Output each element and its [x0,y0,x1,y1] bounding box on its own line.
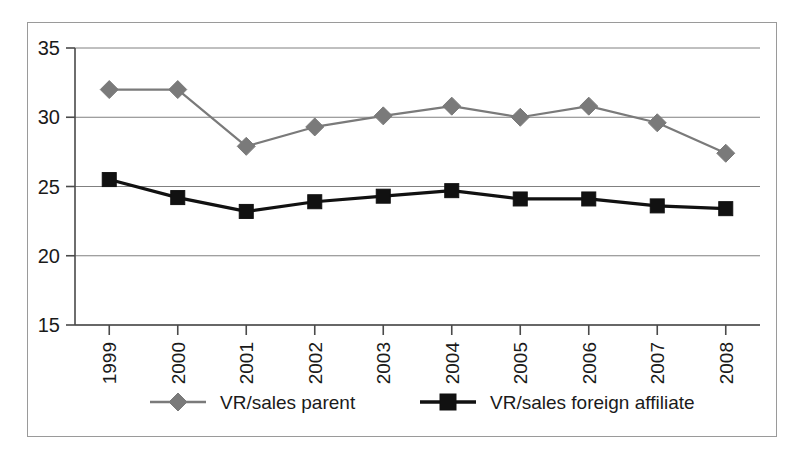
series-line [109,180,726,212]
data-point-marker [306,118,324,136]
x-tick-label: 2008 [716,342,737,384]
x-tick-label: 2002 [305,342,326,384]
data-point-marker [717,144,735,162]
x-tick-labels: 1999200020012002200320042005200620072008 [99,342,737,385]
data-point-marker [374,107,392,125]
x-tick-label: 2001 [236,342,257,384]
x-tick-marks [109,325,726,335]
data-point-marker [102,173,116,187]
data-point-marker [719,202,733,216]
data-point-marker [443,97,461,115]
chart-figure: 1520253035 19992000200120022003200420052… [0,0,800,463]
data-point-marker [440,394,456,410]
y-tick-labels: 1520253035 [38,37,60,336]
y-tick-label: 20 [38,245,60,267]
series-vr-sales-foreign-affiliate [102,173,733,219]
line-chart-plot: 1520253035 19992000200120022003200420052… [0,0,800,463]
data-point-marker [513,192,527,206]
y-tick-label: 30 [38,106,60,128]
data-point-marker [169,393,187,411]
chart-legend: VR/sales parentVR/sales foreign affiliat… [150,392,695,413]
data-point-marker [100,81,118,99]
x-tick-label: 1999 [99,342,120,384]
x-tick-label: 2006 [579,342,600,384]
data-point-marker [650,199,664,213]
x-tick-label: 2000 [168,342,189,384]
y-tick-label: 15 [38,314,60,336]
data-point-marker [580,97,598,115]
x-tick-label: 2005 [510,342,531,384]
data-point-marker [376,189,390,203]
data-point-marker [648,114,666,132]
data-point-marker [171,191,185,205]
data-point-marker [308,195,322,209]
data-point-marker [445,184,459,198]
y-tick-label: 35 [38,37,60,59]
x-tick-label: 2007 [647,342,668,384]
x-tick-label: 2003 [373,342,394,384]
data-point-marker [582,192,596,206]
series-vr-sales-parent [100,81,735,163]
legend-label: VR/sales foreign affiliate [490,392,695,413]
y-tick-marks [66,48,75,325]
data-point-marker [511,108,529,126]
data-point-marker [239,204,253,218]
series-line [109,90,726,154]
y-tick-label: 25 [38,176,60,198]
legend-label: VR/sales parent [220,392,356,413]
x-tick-label: 2004 [442,342,463,385]
